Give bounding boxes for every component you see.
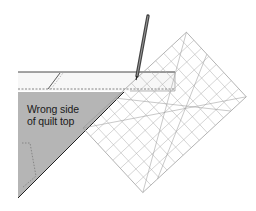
ruler xyxy=(83,32,246,192)
label-line-1: Wrong side xyxy=(27,103,79,115)
quilt-top-label: Wrong side of quilt top xyxy=(27,103,79,127)
pencil-icon xyxy=(136,16,148,80)
label-line-2: of quilt top xyxy=(27,115,79,127)
binding-strip xyxy=(18,72,175,91)
